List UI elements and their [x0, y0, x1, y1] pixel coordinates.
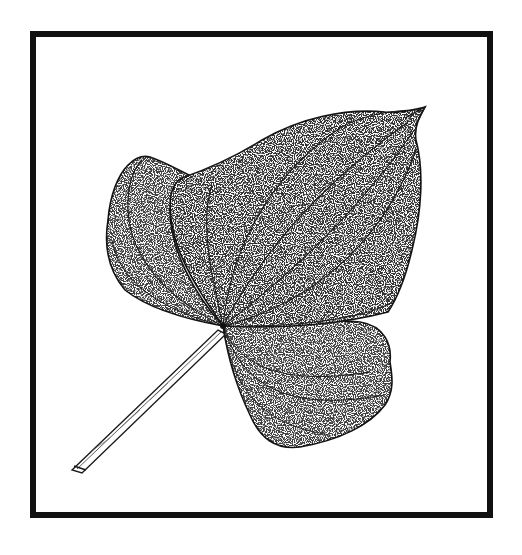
leaf-base-node — [220, 323, 226, 329]
stem — [72, 330, 226, 473]
leaf-upper-blade — [165, 100, 430, 335]
leaf-illustration — [0, 0, 522, 555]
leaf-lower-lobe — [220, 310, 400, 455]
